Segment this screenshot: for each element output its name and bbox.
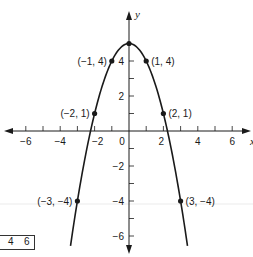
fragment-value: 6 [24, 236, 30, 247]
point-label: (1, 4) [151, 56, 174, 67]
x-axis-right-arrow-icon [242, 128, 251, 134]
parabola-chart: −6−4−20246−6−4−224xy (−1, 4)(1, 4)(−2, 1… [0, 0, 253, 257]
x-tick-label: −2 [92, 136, 104, 147]
y-tick-label: −6 [113, 231, 125, 242]
y-tick-label: 2 [118, 91, 124, 102]
y-tick-label: −2 [113, 161, 125, 172]
point-label: (3, −4) [186, 196, 215, 207]
x-tick-label: −4 [54, 136, 66, 147]
x-axis-label: x [249, 135, 253, 147]
data-point-marker [126, 41, 131, 46]
y-axis-up-arrow-icon [126, 11, 132, 20]
y-axis-label: y [134, 8, 140, 20]
data-point-marker [144, 58, 149, 63]
y-axis-down-arrow-icon [126, 245, 132, 254]
cropped-table-fragment: 4 6 [0, 235, 35, 250]
y-tick-label: 4 [118, 56, 124, 67]
labeled-points: (−1, 4)(1, 4)(−2, 1)(2, 1)(−3, −4)(3, −4… [37, 41, 214, 207]
x-tick-label: 4 [195, 136, 201, 147]
x-tick-label: 2 [159, 136, 165, 147]
data-point-marker [178, 198, 183, 203]
point-label: (−3, −4) [37, 196, 72, 207]
point-label: (2, 1) [168, 108, 191, 119]
point-label: (−1, 4) [78, 56, 107, 67]
point-label: (−2, 1) [60, 108, 89, 119]
data-point-marker [109, 58, 114, 63]
data-point-marker [92, 111, 97, 116]
x-axis-left-arrow-icon [4, 128, 13, 134]
data-point-marker [75, 198, 80, 203]
data-point-marker [161, 111, 166, 116]
y-tick-label: −4 [113, 196, 125, 207]
x-tick-label: 0 [119, 136, 125, 147]
x-tick-label: 6 [229, 136, 235, 147]
x-tick-label: −6 [20, 136, 32, 147]
fragment-value: 4 [8, 236, 14, 247]
